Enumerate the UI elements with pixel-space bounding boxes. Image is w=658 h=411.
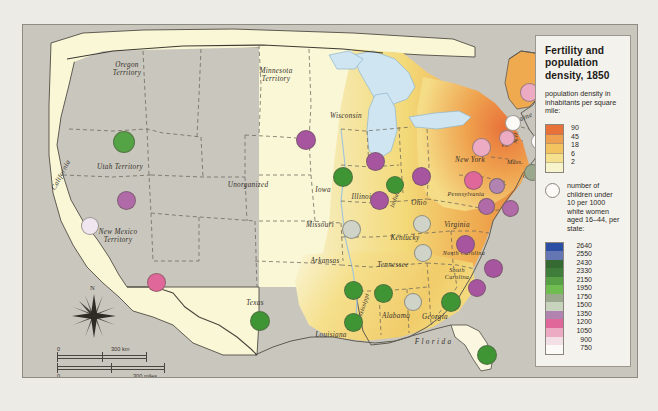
fertility-label-6: 1750 — [571, 293, 592, 302]
scale-miles-tick-0 — [57, 363, 58, 373]
fertility-marker-florida — [477, 345, 497, 365]
scale-miles-tick-mid — [111, 363, 112, 373]
fertility-label-12: 750 — [571, 344, 592, 353]
fertility-marker-virginia — [456, 235, 475, 254]
fertility-marker-iowa — [333, 167, 353, 187]
map-frame: OregonTerritoryUtah TerritoryCaliforniaN… — [22, 24, 638, 378]
fertility-symbol-note: number of children under 10 per 1000 whi… — [545, 182, 622, 234]
scale-km-tick-0 — [57, 352, 58, 362]
fertility-swatch-8 — [546, 311, 563, 320]
fertility-swatch-3 — [546, 268, 563, 277]
fertility-label-5: 1950 — [571, 284, 592, 293]
fertility-color-ramp — [545, 242, 564, 355]
scale-km-value: 300 km — [111, 346, 129, 352]
fertility-marker-missouri — [342, 220, 361, 239]
scale-bar-miles: 0 300 miles — [57, 364, 175, 378]
fertility-label-10: 1050 — [571, 327, 592, 336]
fertility-circle-symbol — [545, 183, 560, 198]
legend-density-heading: population density in inhabitants per sq… — [545, 90, 622, 116]
fertility-marker-alabama — [404, 293, 422, 311]
scale-miles-value: 300 miles — [133, 373, 157, 378]
fertility-marker-n-j — [489, 178, 505, 194]
fertility-marker-wisconsin — [366, 152, 385, 171]
density-label-0: 90 — [571, 124, 579, 133]
fertility-swatch-6 — [546, 294, 563, 303]
fertility-marker-south-carolina — [468, 279, 486, 297]
scale-miles-zero: 0 — [57, 373, 60, 378]
fertility-label-1: 2550 — [571, 250, 592, 259]
fertility-swatch-5 — [546, 285, 563, 294]
screenshot-root: OregonTerritoryUtah TerritoryCaliforniaN… — [0, 0, 658, 411]
fertility-scale: 2640255024302330215019501750150013501200… — [545, 242, 622, 355]
fertility-swatch-2 — [546, 260, 563, 269]
fertility-marker-louisiana — [344, 313, 363, 332]
fertility-marker-vt — [499, 130, 515, 146]
fertility-label-4: 2150 — [571, 276, 592, 285]
fertility-swatch-0 — [546, 243, 563, 252]
fertility-marker-pennsylvania — [464, 171, 483, 190]
fertility-swatch-11 — [546, 337, 563, 346]
compass-north-label: N — [90, 284, 95, 291]
fertility-marker-oregon-territory — [113, 131, 135, 153]
map-legend: Fertility and population density, 1850 p… — [535, 35, 631, 367]
fertility-label-7: 1500 — [571, 301, 592, 310]
scale-bars: 0 300 km 0 300 miles — [57, 349, 175, 378]
density-swatch-1 — [546, 135, 563, 145]
fertility-marker-california — [81, 217, 99, 235]
density-scale: 90451862 — [545, 124, 622, 173]
density-swatch-4 — [546, 163, 563, 172]
fertility-marker-n-h — [505, 115, 521, 131]
fertility-swatch-4 — [546, 277, 563, 286]
fertility-label-2: 2430 — [571, 259, 592, 268]
fertility-swatch-12 — [546, 345, 563, 354]
fertility-marker-georgia — [441, 292, 461, 312]
density-color-ramp — [545, 124, 564, 173]
density-label-3: 6 — [571, 150, 579, 159]
density-label-4: 2 — [571, 158, 579, 167]
fertility-marker-new-mexico-territory — [147, 273, 166, 292]
fertility-label-0: 2640 — [571, 242, 592, 251]
density-scale-labels: 90451862 — [571, 124, 579, 167]
fertility-marker-tennessee — [414, 244, 432, 262]
legend-fertility-heading: number of children under 10 per 1000 whi… — [567, 182, 622, 234]
fertility-marker-new-york — [472, 138, 491, 157]
scale-km-tick-mid — [102, 352, 103, 362]
fertility-scale-labels: 2640255024302330215019501750150013501200… — [571, 242, 592, 353]
legend-title: Fertility and population density, 1850 — [545, 45, 622, 82]
fertility-label-9: 1200 — [571, 318, 592, 327]
fertility-marker-north-carolina — [484, 259, 503, 278]
fertility-marker-del — [502, 200, 519, 217]
fertility-marker-texas — [250, 311, 270, 331]
fertility-swatch-1 — [546, 251, 563, 260]
fertility-marker-arkansas — [344, 281, 363, 300]
density-label-2: 18 — [571, 141, 579, 150]
scale-bar-km: 0 300 km — [57, 349, 175, 363]
fertility-swatch-10 — [546, 328, 563, 337]
fertility-marker-mississippi — [374, 284, 393, 303]
density-label-1: 45 — [571, 133, 579, 142]
fertility-marker-indiana — [386, 176, 404, 194]
fertility-swatch-7 — [546, 302, 563, 311]
scale-miles-tick-end — [164, 363, 165, 373]
density-swatch-2 — [546, 144, 563, 154]
scale-km-tick-end — [146, 352, 147, 362]
fertility-marker-m-d — [478, 198, 495, 215]
fertility-marker-utah-territory — [117, 191, 136, 210]
compass-rose-icon — [71, 293, 117, 339]
fertility-swatch-9 — [546, 319, 563, 328]
fertility-marker-kentucky — [413, 215, 431, 233]
fertility-marker-minnesota-territory — [296, 130, 316, 150]
fertility-label-11: 900 — [571, 336, 592, 345]
density-swatch-0 — [546, 125, 563, 135]
fertility-marker-ohio — [412, 167, 431, 186]
compass-rose: N — [71, 293, 117, 339]
fertility-marker-illinois — [370, 191, 389, 210]
fertility-label-3: 2330 — [571, 267, 592, 276]
fertility-label-8: 1350 — [571, 310, 592, 319]
density-swatch-3 — [546, 154, 563, 164]
